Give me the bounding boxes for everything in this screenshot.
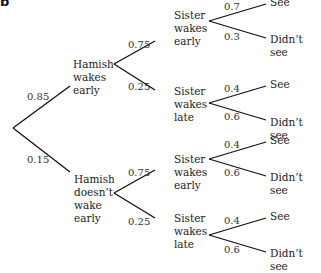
prob-leaf-4: 0.6 bbox=[224, 110, 240, 123]
outcome-leaf-1: See bbox=[270, 0, 290, 9]
prob-h2-sister-late: 0.25 bbox=[128, 215, 150, 228]
prob-h1-sister-late: 0.25 bbox=[128, 80, 150, 93]
outcome-leaf-6: Didn’t see bbox=[270, 171, 321, 197]
outcome-leaf-7: See bbox=[270, 210, 290, 223]
node-hamish-early: Hamish wakes early bbox=[73, 58, 114, 97]
prob-leaf-1: 0.7 bbox=[224, 0, 240, 13]
node-h2-sister-late: Sister wakes late bbox=[174, 212, 207, 251]
node-hamish-not-early: Hamish doesn’t wake early bbox=[74, 173, 115, 225]
outcome-leaf-2: Didn’t see bbox=[270, 33, 321, 59]
outcome-leaf-3: See bbox=[270, 78, 290, 91]
node-h1-sister-early: Sister wakes early bbox=[174, 9, 207, 48]
outcome-leaf-8: Didn’t see bbox=[270, 247, 321, 273]
prob-leaf-8: 0.6 bbox=[224, 243, 240, 256]
prob-leaf-7: 0.4 bbox=[224, 214, 240, 227]
prob-h2-sister-early: 0.75 bbox=[128, 166, 150, 179]
node-h2-sister-early: Sister wakes early bbox=[174, 153, 207, 192]
prob-leaf-6: 0.6 bbox=[224, 166, 240, 179]
outcome-leaf-5: See bbox=[270, 134, 290, 147]
prob-leaf-5: 0.4 bbox=[224, 138, 240, 151]
prob-leaf-3: 0.4 bbox=[224, 82, 240, 95]
prob-h1-sister-early: 0.75 bbox=[128, 38, 150, 51]
prob-leaf-2: 0.3 bbox=[224, 30, 240, 43]
prob-hamish-early: 0.85 bbox=[27, 90, 49, 103]
node-h1-sister-late: Sister wakes late bbox=[174, 85, 207, 124]
prob-hamish-not-early: 0.15 bbox=[27, 153, 49, 166]
